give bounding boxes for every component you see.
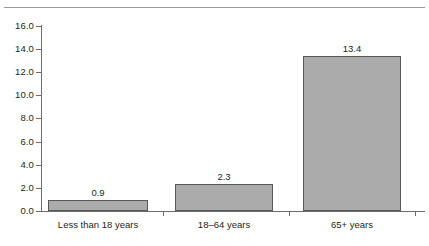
y-axis-tick-label: 0.0 bbox=[0, 206, 34, 216]
bar-less-than-18-years[interactable] bbox=[48, 200, 148, 211]
y-tick-mark bbox=[36, 95, 41, 96]
x-tick-mark bbox=[163, 212, 164, 216]
bar-value-label: 0.9 bbox=[48, 188, 148, 198]
bar-value-label: 13.4 bbox=[303, 44, 401, 54]
x-tick-mark bbox=[415, 212, 416, 216]
y-axis-tick-label: 4.0 bbox=[0, 160, 34, 170]
plot-area: 0.0 2.0 4.0 6.0 8.0 10.0 12.0 14.0 16.0 … bbox=[0, 0, 429, 246]
y-axis-line bbox=[41, 25, 42, 212]
y-tick-mark bbox=[36, 165, 41, 166]
y-tick-mark bbox=[36, 118, 41, 119]
y-axis-tick-label: 16.0 bbox=[0, 21, 34, 31]
y-axis-tick-label: 8.0 bbox=[0, 113, 34, 123]
y-tick-mark bbox=[36, 72, 41, 73]
y-axis-tick-label: 10.0 bbox=[0, 90, 34, 100]
y-axis-tick-label: 14.0 bbox=[0, 44, 34, 54]
x-tick-mark bbox=[289, 212, 290, 216]
y-axis-tick-label: 12.0 bbox=[0, 67, 34, 77]
y-axis-tick-label: 6.0 bbox=[0, 137, 34, 147]
y-axis-tick-label: 2.0 bbox=[0, 183, 34, 193]
y-tick-mark bbox=[36, 49, 41, 50]
y-tick-mark bbox=[36, 26, 41, 27]
bar-65-plus-years[interactable] bbox=[303, 56, 401, 211]
x-axis-line bbox=[41, 211, 425, 212]
x-axis-category-label: 18–64 years bbox=[169, 219, 279, 230]
y-tick-mark bbox=[36, 142, 41, 143]
bar-value-label: 2.3 bbox=[175, 172, 273, 182]
x-axis-category-label: Less than 18 years bbox=[43, 219, 153, 230]
x-axis-category-label: 65+ years bbox=[297, 219, 407, 230]
bar-chart-figure: 0.0 2.0 4.0 6.0 8.0 10.0 12.0 14.0 16.0 … bbox=[0, 0, 429, 246]
y-tick-mark bbox=[36, 188, 41, 189]
y-tick-mark bbox=[36, 211, 41, 212]
bar-18-64-years[interactable] bbox=[175, 184, 273, 211]
